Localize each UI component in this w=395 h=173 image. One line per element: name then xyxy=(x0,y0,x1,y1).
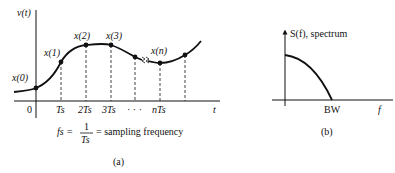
tick-ellipsis: · · · xyxy=(127,104,142,115)
sample-label-x0: x(0) xyxy=(11,72,29,84)
formula-rhs: = sampling frequency xyxy=(96,126,183,137)
sample-label-xn: x(n) xyxy=(150,45,168,57)
panel-a-time-signal: v(t) x(0) x(1) x(2) x(3) x(n) 0 Ts 2Ts 3… xyxy=(11,7,220,168)
panel-b-spectrum: S(f), spectrum BW f (b) xyxy=(272,28,393,138)
tick-2ts: 2Ts xyxy=(78,104,92,115)
sample-label-x2: x(2) xyxy=(73,30,91,42)
sampling-diagram: v(t) x(0) x(1) x(2) x(3) x(n) 0 Ts 2Ts 3… xyxy=(0,0,395,173)
v-axis-label: v(t) xyxy=(17,7,32,19)
tick-zero: 0 xyxy=(27,104,32,115)
tick-3ts: 3Ts xyxy=(101,104,116,115)
formula-numerator: 1 xyxy=(84,121,89,132)
formula-lhs: fs = xyxy=(57,126,73,137)
s-axis-label: S(f), spectrum xyxy=(290,28,347,40)
signal-curve xyxy=(14,41,201,92)
formula-denominator: Ts xyxy=(81,134,90,145)
tick-ts: Ts xyxy=(56,104,65,115)
sample-label-x1: x(1) xyxy=(43,47,61,59)
sampling-frequency-formula: fs = 1 Ts = sampling frequency xyxy=(57,121,183,145)
tick-bw: BW xyxy=(324,104,341,115)
caption-b: (b) xyxy=(321,126,333,138)
spectrum-curve xyxy=(285,55,332,100)
t-axis-label: t xyxy=(213,104,216,115)
break-mark xyxy=(142,57,149,63)
caption-a: (a) xyxy=(113,156,124,168)
f-axis-label: f xyxy=(378,104,382,115)
tick-nts: nTs xyxy=(152,104,166,115)
sample-label-x3: x(3) xyxy=(105,30,123,42)
